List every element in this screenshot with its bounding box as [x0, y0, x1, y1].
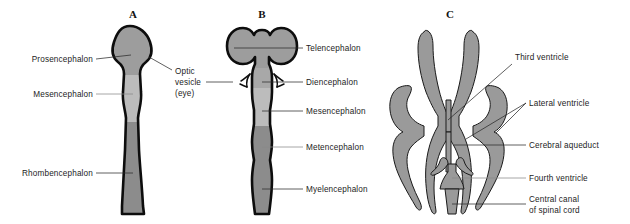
label-telencephalon: Telencephalon	[306, 44, 361, 53]
panel-letter-b: B	[258, 8, 266, 20]
label-mesencephalon-a: Mesencephalon	[33, 90, 93, 99]
label-metencephalon: Metencephalon	[306, 143, 364, 152]
label-lateral-ventricle: Lateral ventricle	[529, 99, 590, 108]
label-cerebral-aqueduct: Cerebral aqueduct	[529, 141, 599, 150]
label-central-canal-line2: of spinal cord	[529, 206, 580, 215]
label-optic-vesicle-line2: vesicle	[175, 78, 201, 87]
label-optic-vesicle-line1: Optic	[175, 67, 195, 76]
panel-letter-c: C	[446, 8, 454, 20]
label-optic-vesicle-line3: (eye)	[175, 89, 195, 98]
brain-development-diagram: A B C Prosencephalon Mesencephalon Rhomb…	[0, 0, 630, 224]
label-myelencephalon: Myelencephalon	[306, 185, 368, 194]
ventricle-third	[446, 100, 451, 132]
label-prosencephalon: Prosencephalon	[32, 55, 94, 64]
label-fourth-ventricle: Fourth ventricle	[529, 174, 588, 183]
label-diencephalon: Diencephalon	[306, 78, 358, 87]
ventricle-central-canal	[445, 189, 459, 214]
label-rhombencephalon: Rhombencephalon	[22, 169, 93, 178]
label-mesencephalon-b: Mesencephalon	[306, 107, 366, 116]
label-central-canal-line1: Central canal	[529, 195, 579, 204]
label-third-ventricle: Third ventricle	[515, 53, 569, 62]
panel-letter-a: A	[129, 8, 137, 20]
